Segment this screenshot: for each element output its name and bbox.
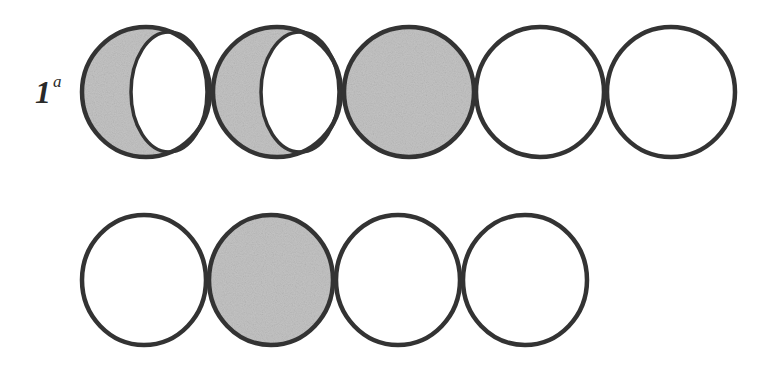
- shape-empty-circle: [336, 215, 460, 345]
- shape-empty-circle: [463, 215, 587, 345]
- shape-shaded-circle: [209, 215, 333, 345]
- shape-crescent-circle: [82, 27, 210, 157]
- figure-label-superscript: a: [53, 72, 62, 91]
- row-1: [82, 27, 735, 157]
- shape-crescent-circle: [213, 27, 341, 157]
- shape-empty-circle: [82, 215, 206, 345]
- shape-shaded-circle: [344, 27, 474, 157]
- circle-diagram: 1a: [0, 0, 772, 375]
- shape-empty-circle: [476, 27, 604, 157]
- row-2: [82, 215, 587, 345]
- shapes-canvas: [0, 0, 772, 375]
- shape-empty-circle: [607, 27, 735, 157]
- figure-label: 1a: [35, 76, 62, 108]
- figure-label-number: 1: [35, 74, 51, 110]
